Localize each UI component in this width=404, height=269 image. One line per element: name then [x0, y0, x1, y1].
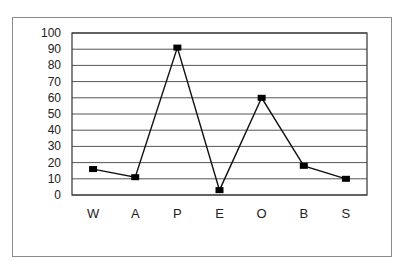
series-line [93, 48, 346, 191]
y-tick-label: 100 [41, 26, 61, 40]
data-point-marker [342, 176, 350, 182]
x-category-label: O [257, 206, 267, 221]
x-category-label: W [87, 206, 100, 221]
x-category-label: S [342, 206, 351, 221]
data-point-marker [300, 163, 308, 169]
y-tick-label: 40 [48, 123, 62, 137]
y-tick-label: 30 [48, 139, 62, 153]
data-point-marker [258, 95, 266, 101]
data-point-marker [89, 166, 97, 172]
x-axis-categories: WAPEOBS [87, 206, 351, 221]
y-tick-label: 10 [48, 172, 62, 186]
y-tick-label: 80 [48, 58, 62, 72]
x-category-label: A [131, 206, 140, 221]
y-tick-label: 20 [48, 156, 62, 170]
y-tick-label: 60 [48, 91, 62, 105]
y-tick-label: 50 [48, 107, 62, 121]
y-tick-label: 0 [54, 188, 61, 202]
x-category-label: B [299, 206, 308, 221]
x-category-label: E [215, 206, 224, 221]
data-point-marker [216, 187, 224, 193]
y-tick-label: 90 [48, 42, 62, 56]
data-point-marker [173, 45, 181, 51]
x-category-label: P [173, 206, 182, 221]
gridlines [72, 33, 367, 195]
y-axis-ticks: 0102030405060708090100 [41, 26, 61, 202]
y-tick-label: 70 [48, 75, 62, 89]
data-point-marker [131, 174, 139, 180]
line-chart: 0102030405060708090100 WAPEOBS [0, 0, 404, 269]
data-markers [89, 45, 350, 194]
